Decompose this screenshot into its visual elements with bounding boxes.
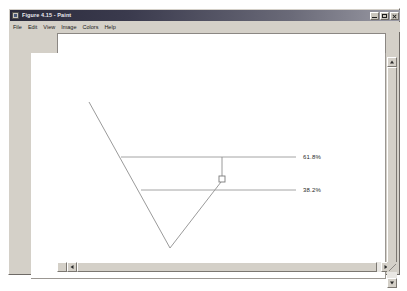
chart-series-downtrend-leg: [89, 102, 170, 248]
screenshot-root: Figure 4.15 - Paint File Edit View Image…: [0, 0, 407, 291]
menu-item-file[interactable]: File: [13, 23, 26, 31]
window-title: Figure 4.15 - Paint: [22, 12, 370, 19]
horizontal-scroll-track[interactable]: [77, 262, 381, 272]
title-bar[interactable]: Figure 4.15 - Paint: [10, 10, 400, 21]
arrow-up-glyph: [390, 61, 394, 64]
paint-window: Figure 4.15 - Paint File Edit View Image…: [8, 8, 400, 275]
chart-series-recovery-leg: [170, 182, 221, 248]
resize-grip-icon[interactable]: [387, 262, 397, 272]
scrollbar-corner: [57, 262, 67, 272]
menu-item-edit[interactable]: Edit: [28, 23, 41, 31]
client-area: 61.8% 38.2%: [11, 33, 399, 274]
fib-label-618: 61.8%: [303, 154, 321, 161]
menu-bar: File Edit View Image Colors Help: [10, 22, 400, 32]
scroll-up-arrow-icon[interactable]: [387, 57, 397, 67]
fibonacci-retracement-chart: [31, 53, 386, 279]
window-controls: [370, 12, 399, 20]
close-icon[interactable]: [390, 12, 399, 20]
paint-app-icon: [12, 12, 19, 19]
horizontal-scroll-thumb[interactable]: [77, 262, 377, 272]
menu-item-view[interactable]: View: [43, 23, 59, 31]
minimize-icon[interactable]: [370, 12, 379, 20]
scroll-left-arrow-icon[interactable]: [67, 262, 77, 272]
scroll-down-arrow-icon[interactable]: [387, 278, 397, 288]
arrow-left-glyph: [71, 265, 74, 269]
menu-item-help[interactable]: Help: [104, 23, 119, 31]
arrow-down-glyph: [390, 282, 394, 285]
fib-label-382: 38.2%: [303, 187, 321, 194]
drawing-canvas[interactable]: 61.8% 38.2%: [31, 53, 386, 279]
maximize-icon[interactable]: [380, 12, 389, 20]
menu-item-colors[interactable]: Colors: [82, 23, 102, 31]
vertical-scrollbar[interactable]: [387, 57, 397, 288]
chart-marker-square-handle[interactable]: [219, 176, 225, 182]
horizontal-scrollbar[interactable]: [67, 262, 391, 272]
vertical-scroll-thumb[interactable]: [387, 67, 397, 263]
vertical-scroll-track[interactable]: [387, 67, 397, 278]
menu-item-image[interactable]: Image: [61, 23, 80, 31]
